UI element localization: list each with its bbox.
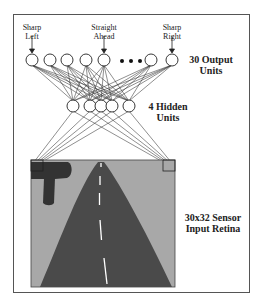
hidden-node [95, 100, 107, 112]
output-node [98, 54, 110, 66]
ellipsis-dots [120, 59, 142, 63]
output-node [26, 54, 38, 66]
output-layer [26, 54, 178, 66]
output-node [80, 54, 92, 66]
output-node [44, 54, 56, 66]
label-sharp-right: Sharp Right [157, 23, 187, 41]
input-retina [31, 160, 175, 287]
hidden-node [106, 100, 118, 112]
output-layer-label: 30 Output Units [186, 54, 236, 76]
output-hidden-edges [32, 65, 172, 101]
label-straight-ahead: Straight Ahead [84, 23, 124, 41]
output-node [166, 54, 178, 66]
hidden-node [123, 100, 135, 112]
input-layer-label: 30x32 Sensor Input Retina [184, 212, 242, 234]
output-node [145, 54, 157, 66]
output-node [61, 54, 73, 66]
network-diagram [0, 0, 262, 308]
hidden-node [67, 100, 79, 112]
hidden-node [84, 100, 96, 112]
hidden-layer [67, 100, 135, 112]
label-sharp-left: Sharp Left [17, 23, 47, 41]
hidden-layer-label: 4 Hidden Units [146, 101, 190, 123]
